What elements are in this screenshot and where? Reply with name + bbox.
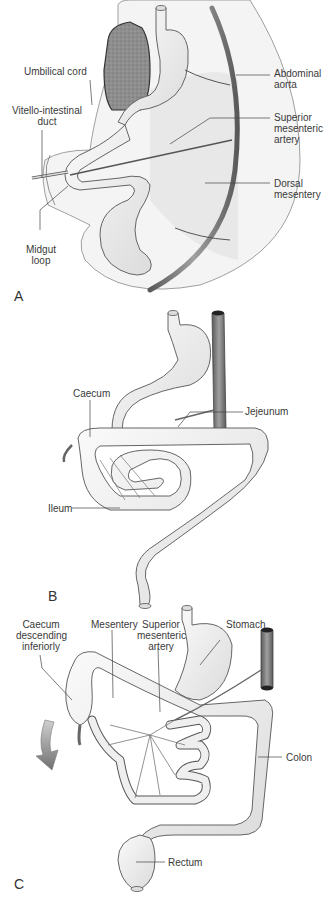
label-line: mesenteric: [137, 630, 185, 641]
rectum: [118, 835, 155, 888]
panel-letter-b: B: [48, 588, 57, 604]
label-line: Vitello-intestinal: [12, 105, 82, 116]
label-dorsal-mesentery: Dorsal mesentery: [274, 178, 321, 200]
aorta-b: [212, 313, 226, 430]
aorta-c: [261, 630, 273, 688]
label-line: mesentery: [274, 189, 321, 200]
label-line: artery: [274, 134, 323, 145]
label-line: mesenteric: [274, 123, 323, 134]
label-line: Superior: [137, 619, 185, 630]
panel-letter-c: C: [14, 876, 24, 892]
label-stomach: Stomach: [226, 619, 265, 630]
label-line: Midgut: [24, 244, 58, 255]
label-line: Superior: [274, 112, 323, 123]
panel-a: [32, 0, 300, 290]
label-caecum-descending-inferiorly: Caecum descending inferiorly: [16, 619, 66, 652]
label-superior-mesenteric-artery-c: Superior mesenteric artery: [137, 619, 185, 652]
label-ileum: Ileum: [48, 503, 72, 514]
stomach-b: [112, 313, 211, 430]
label-superior-mesenteric-artery-a: Superior mesenteric artery: [274, 112, 323, 145]
descending-arrow-icon: [36, 720, 58, 770]
label-rectum: Rectum: [168, 857, 202, 868]
label-line: descending: [16, 630, 66, 641]
label-jejeunum: Jejeunum: [245, 406, 288, 417]
label-line: loop: [24, 255, 58, 266]
panel-letter-a: A: [14, 288, 23, 304]
label-line: inferiorly: [16, 641, 66, 652]
label-line: Caecum: [16, 619, 66, 630]
label-midgut-loop: Midgut loop: [24, 244, 58, 266]
intestine-b: [78, 428, 268, 605]
label-line: aorta: [274, 79, 321, 90]
label-umbilical-cord: Umbilical cord: [24, 66, 87, 77]
label-line: duct: [12, 116, 82, 127]
label-colon: Colon: [286, 752, 312, 763]
label-abdominal-aorta: Abdominal aorta: [274, 68, 321, 90]
label-line: artery: [137, 641, 185, 652]
label-mesentery: Mesentery: [91, 619, 138, 630]
label-vitello-intestinal-duct: Vitello-intestinal duct: [12, 105, 82, 127]
label-line: Dorsal: [274, 178, 321, 189]
label-line: Abdominal: [274, 68, 321, 79]
colon: [66, 652, 273, 842]
small-intestine: [92, 720, 207, 800]
panel-b: [64, 311, 269, 609]
label-caecum: Caecum: [73, 388, 110, 399]
